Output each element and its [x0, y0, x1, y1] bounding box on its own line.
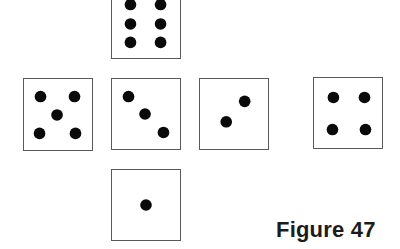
- four-pips-icon: [314, 78, 382, 148]
- die-face-center-three: [111, 78, 181, 150]
- die-face-far-right-four: [313, 77, 383, 149]
- pip-dot: [155, 0, 167, 10]
- pip-dot: [123, 91, 135, 103]
- pip-dot: [35, 91, 47, 103]
- pip-dot: [69, 91, 81, 103]
- pip-dot: [155, 37, 167, 49]
- pip-dot: [158, 127, 170, 139]
- pip-dot: [34, 128, 46, 140]
- pip-dot: [51, 109, 63, 121]
- pip-dot: [125, 18, 137, 30]
- three-pips-icon: [112, 79, 180, 149]
- five-pips-icon: [24, 79, 92, 150]
- pip-dot: [360, 124, 372, 136]
- pip-dot: [327, 124, 339, 136]
- die-face-bottom-one: [111, 169, 181, 241]
- one-pip-icon: [112, 170, 180, 240]
- pip-dot: [140, 199, 152, 211]
- two-pips-icon: [200, 79, 268, 149]
- six-pips-icon: [112, 0, 180, 58]
- figure-caption: Figure 47: [276, 219, 376, 241]
- pip-dot: [155, 18, 167, 30]
- die-face-top-six: [111, 0, 181, 59]
- pip-dot: [359, 92, 371, 104]
- pip-dot: [125, 37, 137, 49]
- die-face-left-five: [23, 78, 93, 151]
- pip-dot: [139, 108, 151, 120]
- die-face-right-two: [199, 78, 269, 150]
- pip-dot: [328, 92, 340, 104]
- pip-dot: [220, 116, 232, 128]
- pip-dot: [239, 96, 251, 108]
- pip-dot: [125, 0, 137, 10]
- pip-dot: [70, 128, 82, 140]
